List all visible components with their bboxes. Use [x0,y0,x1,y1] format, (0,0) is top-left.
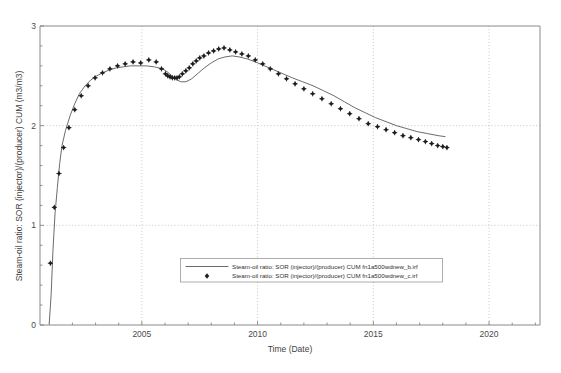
tick-label-y: 1 [31,220,36,230]
legend-label-c: Steam-oil ratio: SOR (injector)/(produce… [232,272,418,279]
tick-label-x: 2005 [132,329,151,339]
chart-legend[interactable]: Steam-oil ratio: SOR (injector)/(produce… [181,259,443,283]
y-axis-tick-labels: 0123 [31,21,36,330]
x-axis-title: Time (Date) [268,344,313,354]
chart-container: 0123 2005201020152020 Time (Date) Steam-… [0,0,561,373]
tick-label-y: 2 [31,121,36,131]
legend-label-b: Steam-oil ratio: SOR (injector)/(produce… [232,263,418,270]
tick-label-x: 2020 [480,329,499,339]
tick-label-x: 2010 [248,329,267,339]
sor-line-chart: 0123 2005201020152020 Time (Date) Steam-… [0,0,561,373]
y-axis-title: Steam-oil ratio: SOR (injector)/(produce… [14,71,24,282]
tick-label-y: 0 [31,320,36,330]
x-axis-tick-labels: 2005201020152020 [132,329,498,339]
tick-label-x: 2015 [364,329,383,339]
tick-label-y: 3 [31,21,36,31]
